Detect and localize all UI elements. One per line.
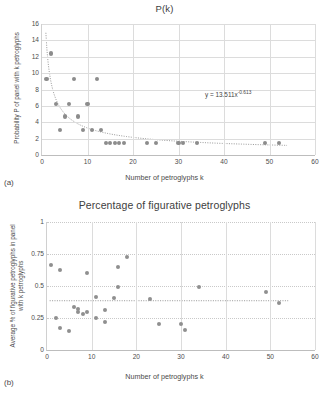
x-tick-label: 60: [303, 353, 327, 360]
data-point: [277, 141, 281, 145]
data-point: [181, 141, 185, 145]
gridline-vertical: [270, 24, 271, 155]
x-tick-label: 60: [303, 158, 327, 165]
y-tick-label: 8: [15, 86, 39, 93]
data-point: [197, 285, 201, 289]
y-tick-label: 0.75: [20, 250, 44, 257]
data-point: [122, 141, 126, 145]
data-point: [94, 295, 98, 299]
data-point: [90, 128, 94, 132]
data-point: [58, 128, 62, 132]
x-tick-label: 30: [167, 158, 191, 165]
data-point: [81, 312, 85, 316]
data-point: [176, 141, 180, 145]
gridline-vertical: [315, 24, 316, 155]
gridline-vertical: [226, 222, 227, 350]
panel-tag-b: (b): [4, 378, 14, 387]
x-tick-label: 0: [35, 353, 59, 360]
x-tick-label: 10: [76, 158, 100, 165]
data-point: [99, 128, 103, 132]
gridline-vertical: [315, 222, 316, 350]
data-point: [81, 128, 85, 132]
data-point: [85, 271, 89, 275]
x-tick-label: 10: [80, 353, 104, 360]
x-tick-label: 0: [30, 158, 54, 165]
y-tick-label: 14: [15, 36, 39, 43]
data-point: [54, 316, 58, 320]
panel-a: P(k) Probability P of panel with k petro…: [0, 0, 329, 196]
x-tick-label: 20: [124, 353, 148, 360]
x-tick-label: 50: [258, 158, 282, 165]
data-point: [195, 141, 199, 145]
data-point: [49, 51, 53, 55]
gridline-vertical: [181, 222, 182, 350]
y-tick-label: 0: [15, 151, 39, 158]
data-point: [72, 305, 76, 309]
gridline-vertical: [270, 222, 271, 350]
x-tick-label: 40: [214, 353, 238, 360]
plot-area-a: 02468101214160102030405060: [41, 24, 315, 156]
data-point: [63, 114, 67, 118]
gridline-vertical: [92, 222, 93, 350]
data-point: [263, 141, 267, 145]
y-tick-label: 16: [15, 20, 39, 27]
y-tick-label: 1: [20, 218, 44, 225]
y-tick-label: 0.25: [20, 314, 44, 321]
plot-area-b: 00.250.50.7510102030405060: [46, 222, 315, 351]
x-tick-label: 50: [258, 353, 282, 360]
data-point: [154, 141, 158, 145]
data-point: [113, 141, 117, 145]
y-tick-label: 6: [15, 102, 39, 109]
chart-title-a: P(k): [0, 3, 329, 14]
x-tick-label: 20: [121, 158, 145, 165]
y-tick-label: 0.5: [20, 282, 44, 289]
gridline-vertical: [133, 24, 134, 155]
data-point: [44, 77, 48, 81]
data-point: [85, 102, 89, 106]
equation-exponent: -0.613: [238, 90, 252, 95]
panel-tag-a: (a): [4, 178, 14, 187]
data-point: [145, 141, 149, 145]
data-point: [95, 77, 99, 81]
x-axis-label-b: Number of petroglyphs k: [0, 372, 329, 381]
equation-base: y = 13.511x: [205, 91, 238, 98]
data-point: [104, 141, 108, 145]
y-tick-label: 12: [15, 53, 39, 60]
gridline-vertical: [179, 24, 180, 155]
gridline-vertical: [88, 24, 89, 155]
panel-b: Percentage of figurative petroglyphs Ave…: [0, 196, 329, 398]
y-tick-label: 4: [15, 118, 39, 125]
x-tick-label: 30: [169, 353, 193, 360]
x-tick-label: 40: [212, 158, 236, 165]
y-tick-label: 0: [20, 346, 44, 353]
data-point: [103, 320, 107, 324]
data-point: [72, 77, 76, 81]
two-panel-figure: P(k) Probability P of panel with k petro…: [0, 0, 329, 398]
chart-title-b: Percentage of figurative petroglyphs: [0, 199, 329, 211]
y-tick-label: 10: [15, 69, 39, 76]
x-axis-label-a: Number of petroglyphs k: [0, 173, 329, 182]
trendline-equation-a: y = 13.511x-0.613: [205, 90, 251, 98]
y-tick-label: 2: [15, 135, 39, 142]
data-point: [157, 322, 161, 326]
gridline-vertical: [136, 222, 137, 350]
